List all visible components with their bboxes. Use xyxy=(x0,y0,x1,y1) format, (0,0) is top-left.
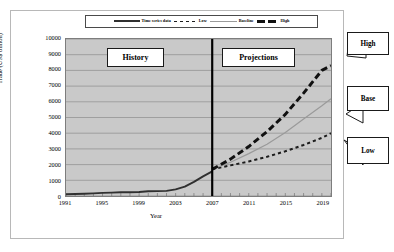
legend-item-baseline: Baseline xyxy=(210,19,254,23)
thick-dashed-line-icon xyxy=(257,20,279,22)
y-axis-tick: 6000 xyxy=(27,98,61,104)
x-axis-tick: 1991 xyxy=(50,200,80,206)
series-layer xyxy=(66,66,331,195)
y-axis-tick: 2000 xyxy=(27,162,61,168)
legend-item-high: High xyxy=(257,19,290,23)
callout-high: High xyxy=(347,32,389,55)
dashed-line-icon xyxy=(174,21,197,23)
y-axis-tick: 7000 xyxy=(27,82,61,88)
x-axis-tick: 2011 xyxy=(234,200,264,206)
chart-figure: Time series data Low Baseline High 01000… xyxy=(0,0,394,252)
projections-region-label: Projections xyxy=(222,48,295,67)
y-axis-tick: 5000 xyxy=(27,114,61,120)
y-axis-label: Trade (US$ billion) xyxy=(0,33,3,84)
history-region-label: History xyxy=(107,48,164,67)
y-axis-tick: 3000 xyxy=(27,146,61,152)
y-axis-tick: 9000 xyxy=(27,51,61,57)
solid-line-icon xyxy=(114,20,140,22)
legend-label: Time series data xyxy=(142,19,171,23)
thin-line-icon xyxy=(210,21,237,22)
chart-legend: Time series data Low Baseline High xyxy=(85,15,318,28)
legend-item-time-series-data: Time series data xyxy=(114,19,171,23)
callout-base: Base xyxy=(347,86,389,111)
x-axis-tick: 1999 xyxy=(124,200,154,206)
callout-low: Low xyxy=(347,137,389,164)
y-axis-tick: 0 xyxy=(27,194,61,200)
x-axis-label: Year xyxy=(150,212,162,219)
legend-label: Low xyxy=(199,19,207,23)
y-axis-tick: 1000 xyxy=(27,178,61,184)
legend-label: High xyxy=(281,19,290,23)
x-axis-tick: 2019 xyxy=(308,200,338,206)
x-axis-tick: 2007 xyxy=(197,200,227,206)
legend-label: Baseline xyxy=(239,19,254,23)
y-axis-tick: 10000 xyxy=(27,35,61,41)
legend-item-low: Low xyxy=(174,19,207,23)
y-axis-tick: 8000 xyxy=(27,66,61,72)
x-axis-tick: 2015 xyxy=(271,200,301,206)
y-axis-tick: 4000 xyxy=(27,130,61,136)
x-axis-tick: 2003 xyxy=(160,200,190,206)
x-axis-tick: 1995 xyxy=(87,200,117,206)
